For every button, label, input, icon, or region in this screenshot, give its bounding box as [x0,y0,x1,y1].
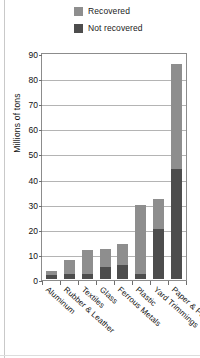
bar-stack [117,244,128,279]
bar-slot [43,55,61,279]
bar-stack [82,250,93,279]
bar-stack [46,271,57,279]
bar-segment-recovered [171,64,182,168]
bar-slot [61,55,79,279]
bar-slot [96,55,114,279]
y-tick-mark [39,55,42,56]
bar-segment-not-recovered [82,274,93,279]
plot-area: 9080706050403020100 [41,53,187,281]
y-tick-mark [39,206,42,207]
y-tick-label: 60 [29,125,38,135]
legend-label-not-recovered: Not recovered [88,23,143,33]
y-tick-label: 70 [29,100,38,110]
y-tick-label: 0 [33,276,38,286]
y-tick-label: 80 [29,75,38,85]
bar-stack [135,205,146,279]
bar-segment-recovered [135,205,146,274]
bar-segment-recovered [82,250,93,274]
chart-figure: Recovered Not recovered Millions of tons… [0,0,200,358]
y-tick-mark [39,256,42,257]
bar-slot [132,55,150,279]
bar-slot [79,55,97,279]
y-tick-label: 10 [29,251,38,261]
bar-stack [153,199,164,279]
y-tick-mark [39,231,42,232]
y-tick-mark [39,105,42,106]
bar-stack [171,64,182,279]
bar-segment-recovered [153,199,164,229]
bar-segment-not-recovered [46,275,57,279]
bar-segment-not-recovered [117,265,128,279]
y-tick-mark [39,155,42,156]
plot-area-wrapper: 9080706050403020100 [41,53,187,281]
bar-segment-not-recovered [171,169,182,279]
y-tick-mark [39,80,42,81]
bar-stack [100,249,111,279]
bar-slot [167,55,185,279]
x-axis-labels: AluminumRubber & LeatherTextilesGlassFer… [41,285,200,358]
legend-swatch-recovered [74,7,83,16]
legend-swatch-not-recovered [74,24,83,33]
bar-segment-not-recovered [100,267,111,279]
chart-legend: Recovered Not recovered [74,4,194,38]
bar-series-group [43,55,185,279]
bar-segment-recovered [100,249,111,268]
bar-segment-not-recovered [135,274,146,279]
y-tick-label: 40 [29,176,38,186]
bar-slot [114,55,132,279]
bar-segment-recovered [64,260,75,274]
legend-label-recovered: Recovered [88,6,130,16]
y-tick-label: 20 [29,226,38,236]
y-tick-label: 90 [29,50,38,60]
y-tick-mark [39,130,42,131]
y-tick-label: 50 [29,150,38,160]
bar-slot [150,55,168,279]
y-axis-title: Millions of tons [12,68,22,178]
bar-segment-recovered [117,244,128,265]
y-tick-label: 30 [29,201,38,211]
page-border-left [4,0,5,358]
legend-item-not-recovered: Not recovered [74,21,194,35]
bar-stack [64,260,75,279]
legend-item-recovered: Recovered [74,4,194,18]
bar-segment-not-recovered [64,274,75,279]
y-tick-mark [39,181,42,182]
bar-segment-not-recovered [153,229,164,279]
